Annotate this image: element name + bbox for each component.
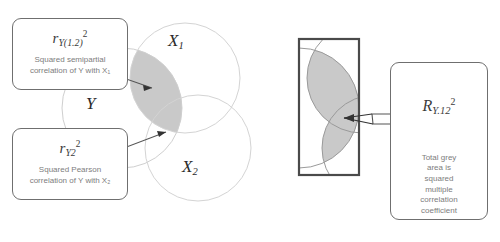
formula-semipartial: rY(1.2)2 [53, 30, 88, 48]
shaded-overlap-y-x1 [130, 23, 240, 133]
venn-label-x2-sub: 2 [192, 166, 197, 177]
formula-pearson-sub: Y2 [65, 146, 75, 157]
formula-multiple-sup: 2 [450, 96, 455, 107]
venn-label-x1-base: X [168, 31, 178, 50]
formula-multiple: RY.122 [423, 97, 456, 117]
venn-label-x1-sub: 1 [178, 40, 183, 51]
venn-label-x1: X1 [168, 32, 184, 52]
callout-multiple-correlation: RY.122 Total grey area is squared multip… [390, 62, 488, 220]
venn-label-y: Y [86, 95, 95, 112]
formula-semipartial-sup: 2 [83, 29, 88, 39]
callout-semipartial-description: Squared semipartial correlation of Y wit… [30, 55, 110, 76]
callout-pearson-description: Squared Pearson correlation of Y with X₂ [30, 165, 111, 186]
leader-arrow-pearson [157, 131, 166, 137]
formula-multiple-base: R [423, 97, 433, 114]
callout-pearson: rY22 Squared Pearson correlation of Y wi… [12, 128, 128, 200]
venn-label-x2-base: X [182, 157, 192, 176]
formula-multiple-sub: Y.12 [432, 105, 450, 116]
leader-line-multiple [372, 114, 390, 124]
formula-pearson: rY22 [60, 140, 81, 158]
venn-label-x2: X2 [182, 158, 198, 178]
figure-canvas: Y X1 X2 rY(1.2)2 Squared semipartial cor… [0, 0, 500, 242]
formula-semipartial-sub: Y(1.2) [58, 36, 82, 47]
formula-pearson-sup: 2 [76, 139, 81, 149]
callout-semipartial: rY(1.2)2 Squared semipartial correlation… [12, 18, 128, 90]
venn-label-y-text: Y [86, 94, 95, 113]
callout-multiple-description: Total grey area is squared multiple corr… [420, 153, 457, 216]
